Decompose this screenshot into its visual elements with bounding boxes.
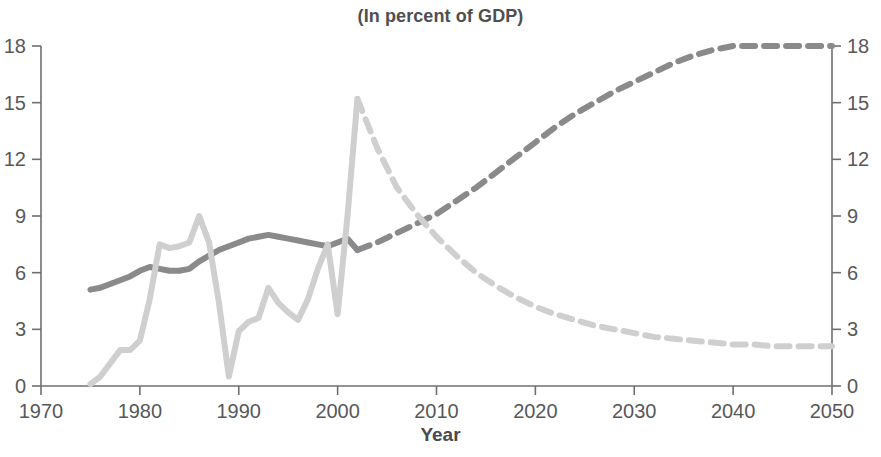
y-tick-label-right: 0 <box>847 375 858 397</box>
x-tick-label: 1970 <box>19 400 64 422</box>
y-tick-label-left: 18 <box>4 35 26 57</box>
y-tick-label-right: 18 <box>847 35 869 57</box>
x-tick-label: 2030 <box>612 400 657 422</box>
x-tick-label: 2040 <box>711 400 756 422</box>
y-tick-label-left: 12 <box>4 148 26 170</box>
x-tick-label: 2010 <box>414 400 459 422</box>
y-tick-label-right: 3 <box>847 318 858 340</box>
series-group <box>90 46 832 384</box>
y-tick-label-left: 9 <box>15 205 26 227</box>
y-tick-label-left: 3 <box>15 318 26 340</box>
y-tick-label-left: 0 <box>15 375 26 397</box>
y-tick-label-left: 15 <box>4 92 26 114</box>
chart-figure: (In percent of GDP) 19701980199020002010… <box>0 0 881 457</box>
x-tick-label: 2020 <box>513 400 558 422</box>
y-tick-label-right: 6 <box>847 262 858 284</box>
series-line-series-light-projection <box>357 99 832 346</box>
x-tick-label: 2000 <box>315 400 360 422</box>
tick-labels-group: 1970198019902000201020202030204020500033… <box>4 35 870 422</box>
y-tick-label-left: 6 <box>15 262 26 284</box>
chart-plot-area: 1970198019902000201020202030204020500033… <box>0 0 881 457</box>
x-tick-label: 1980 <box>118 400 163 422</box>
x-tick-label: 2050 <box>810 400 855 422</box>
series-line-series-dark-projection <box>357 46 832 250</box>
x-tick-label: 1990 <box>217 400 262 422</box>
y-tick-label-right: 9 <box>847 205 858 227</box>
x-axis-title: Year <box>0 424 881 446</box>
y-tick-label-right: 15 <box>847 92 869 114</box>
y-tick-label-right: 12 <box>847 148 869 170</box>
